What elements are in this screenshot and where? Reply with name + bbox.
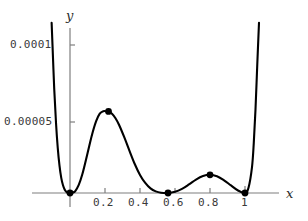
data-point-group xyxy=(67,108,249,196)
x-tick-label-0.6: 0.6 xyxy=(163,196,184,209)
plot-canvas xyxy=(0,0,308,221)
y-tick-label-0.00005: 0.00005 xyxy=(4,115,52,128)
data-point xyxy=(67,190,74,197)
y-tick-label-0.0001: 0.0001 xyxy=(10,38,52,51)
data-curve xyxy=(52,23,259,193)
x-tick-label-0.4: 0.4 xyxy=(128,196,149,209)
x-tick-label-1: 1 xyxy=(241,196,248,209)
data-point xyxy=(105,108,112,115)
x-axis-label: x xyxy=(286,186,293,201)
x-tick-label-0.2: 0.2 xyxy=(93,196,114,209)
plot-figure: 0.0001 0.00005 0.2 0.4 0.6 0.8 1 x y xyxy=(0,0,308,221)
x-tick-label-0.8: 0.8 xyxy=(198,196,219,209)
y-axis-label: y xyxy=(66,8,73,23)
data-point xyxy=(207,171,214,178)
